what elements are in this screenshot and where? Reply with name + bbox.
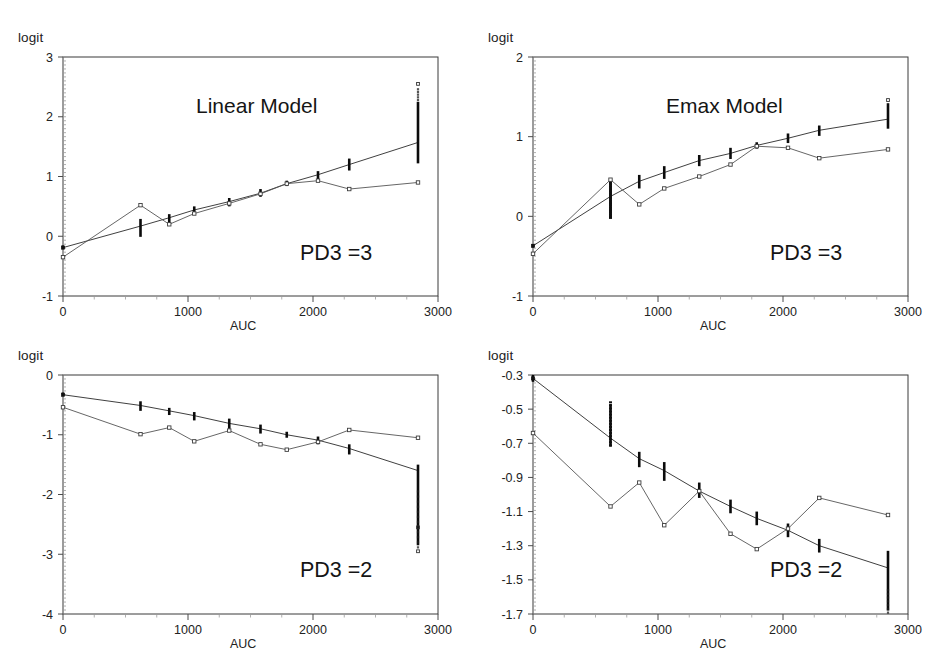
plot-frame (533, 375, 908, 614)
x-axis-tick-label: 3000 (894, 623, 922, 637)
observed-point-marker (348, 428, 351, 431)
scatter-point (609, 196, 612, 198)
scatter-point (609, 187, 612, 189)
scatter-point (417, 536, 419, 538)
y-axis-tick-label: -1.1 (501, 505, 523, 519)
predicted-line (63, 142, 418, 247)
scatter-point (417, 490, 419, 492)
scatter-point (609, 411, 612, 413)
panel-top-left: logit Linear Model PD3 =3 AUC 3210-10100… (0, 0, 470, 342)
scatter-point (609, 206, 612, 208)
scatter-point (609, 441, 612, 443)
predicted-point-marker (61, 393, 64, 396)
x-axis-tick-label: 2000 (769, 305, 797, 319)
scatter-point (417, 541, 419, 543)
scatter-point (609, 429, 612, 431)
observed-point-marker (531, 252, 534, 255)
scatter-point (609, 191, 612, 193)
scatter-point (417, 91, 419, 93)
predicted-point-marker (531, 244, 534, 247)
scatter-point (887, 589, 889, 591)
scatter-point (417, 88, 419, 90)
scatter-point (609, 189, 612, 191)
x-axis-tick-label: 2000 (299, 305, 327, 319)
scatter-point (609, 420, 612, 422)
scatter-point (609, 208, 612, 210)
observed-point-marker (316, 179, 319, 182)
predicted-line (63, 395, 418, 471)
scatter-point (609, 444, 612, 446)
observed-line (63, 407, 418, 449)
plot-frame (533, 57, 908, 296)
scatter-point (887, 597, 889, 599)
observed-point-marker (168, 426, 171, 429)
x-axis-tick-label: 1000 (174, 623, 202, 637)
y-axis-tick-label: 0 (46, 369, 53, 383)
plot-canvas-bottom-left: 0-1-2-3-40100020003000 (0, 342, 470, 670)
scatter-point (417, 521, 419, 523)
scatter-point (417, 99, 419, 101)
y-axis-tick-label: 1 (516, 130, 523, 144)
observed-point-marker (729, 163, 732, 166)
scatter-point (609, 198, 612, 200)
observed-point-marker (531, 431, 534, 434)
y-axis-tick-label: -1.7 (501, 608, 523, 622)
observed-point-marker (663, 524, 666, 527)
y-axis-tick-label: -1 (42, 290, 53, 304)
y-axis-tick-label: -1.5 (501, 573, 523, 587)
observed-point-marker (139, 432, 142, 435)
y-axis-tick-label: 1 (46, 170, 53, 184)
scatter-point (609, 203, 612, 205)
observed-point-marker (786, 527, 789, 530)
scatter-point (887, 593, 889, 595)
y-axis-tick-label: -3 (42, 548, 53, 562)
x-axis-tick-label: 1000 (644, 305, 672, 319)
scatter-point (609, 404, 612, 406)
scatter-point (609, 435, 612, 437)
x-axis-tick-label: 0 (530, 305, 537, 319)
scatter-point (417, 495, 419, 497)
observed-point-marker (139, 203, 142, 206)
panel-bottom-right: logit PD3 =2 AUC -0.3-0.5-0.7-0.9-1.1-1.… (470, 342, 939, 670)
y-axis-tick-label: -0.7 (501, 437, 523, 451)
scatter-point (609, 217, 612, 219)
observed-line (533, 146, 888, 254)
x-axis-tick-label: 3000 (424, 305, 452, 319)
panel-top-right: logit Emax Model PD3 =3 AUC 210-10100020… (470, 0, 939, 342)
x-axis-tick-label: 3000 (894, 305, 922, 319)
scatter-point (887, 608, 889, 610)
figure-panel-grid: logit Linear Model PD3 =3 AUC 3210-10100… (0, 0, 939, 670)
y-axis-tick-label: -4 (42, 608, 53, 622)
scatter-point (609, 215, 612, 217)
scatter-point (609, 438, 612, 440)
scatter-point (417, 506, 419, 508)
x-axis-tick-label: 3000 (424, 623, 452, 637)
scatter-point (609, 432, 612, 434)
scatter-point (417, 511, 419, 513)
x-axis-tick-label: 0 (530, 623, 537, 637)
scatter-point (609, 210, 612, 212)
scatter-point (609, 423, 612, 425)
observed-line (533, 433, 888, 549)
scatter-point (609, 194, 612, 196)
observed-point-marker (228, 202, 231, 205)
observed-point-marker (416, 181, 419, 184)
scatter-point (609, 205, 612, 207)
y-axis-tick-label: -1.3 (501, 539, 523, 553)
scatter-point (609, 401, 612, 403)
y-axis-tick-label: -1 (512, 290, 523, 304)
scatter-point (887, 600, 889, 602)
observed-point-marker (663, 187, 666, 190)
y-axis-tick-label: 0 (516, 210, 523, 224)
plot-frame (63, 375, 438, 614)
y-axis-tick-label: -1 (42, 428, 53, 442)
scatter-point (417, 516, 419, 518)
scatter-point (609, 212, 612, 214)
y-axis-tick-label: 3 (46, 51, 53, 65)
scatter-point (417, 96, 419, 98)
y-axis-tick-label: -0.9 (501, 471, 523, 485)
scatter-point (417, 526, 419, 528)
plot-frame (63, 57, 438, 296)
observed-point-marker (786, 146, 789, 149)
scatter-point (609, 192, 612, 194)
